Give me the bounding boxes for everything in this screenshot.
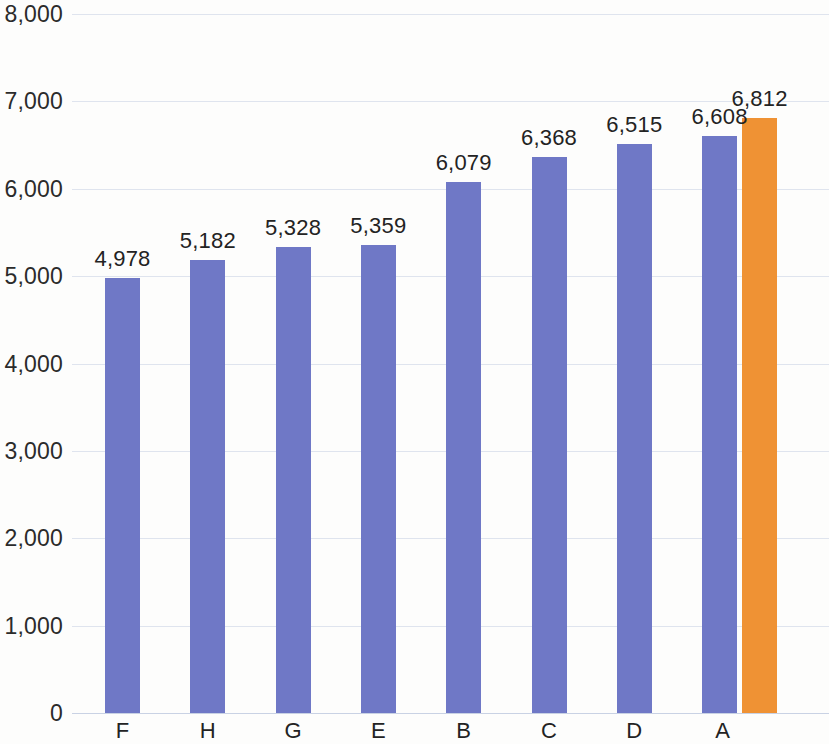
bar-value-label-d: 6,515 xyxy=(606,112,662,138)
x-axis-tick-label-b: B xyxy=(456,718,471,744)
bar-highlight-a xyxy=(742,118,777,713)
bar-value-label-c: 6,368 xyxy=(521,125,577,151)
gridline xyxy=(72,713,829,714)
x-axis-tick-label-c: C xyxy=(541,718,557,744)
gridline xyxy=(72,101,829,102)
y-axis-tick-label: 6,000 xyxy=(0,175,63,202)
y-axis-tick-label: 7,000 xyxy=(0,88,63,115)
bar-value-label-b: 6,079 xyxy=(436,150,492,176)
bar-h xyxy=(190,260,225,713)
x-axis-tick-label-a: A xyxy=(715,718,730,744)
y-axis-tick-label: 8,000 xyxy=(0,1,63,28)
bar-d xyxy=(617,144,652,713)
y-axis-tick-label: 2,000 xyxy=(0,525,63,552)
y-axis-tick-label: 0 xyxy=(0,700,63,727)
bar-f xyxy=(105,278,140,713)
x-axis-tick-label-d: D xyxy=(626,718,642,744)
bar-g xyxy=(276,247,311,713)
x-axis-tick-label-f: F xyxy=(116,718,129,744)
bar-b xyxy=(446,182,481,713)
y-axis-tick-label: 5,000 xyxy=(0,263,63,290)
gridline xyxy=(72,14,829,15)
x-axis-tick-label-e: E xyxy=(371,718,386,744)
y-axis-tick-label: 1,000 xyxy=(0,612,63,639)
bar-value-label-f: 4,978 xyxy=(94,246,150,272)
x-axis-tick-label-h: H xyxy=(200,718,216,744)
x-axis-tick-label-g: G xyxy=(285,718,302,744)
bar-chart: 01,0002,0003,0004,0005,0006,0007,0008,00… xyxy=(0,0,829,744)
y-axis-tick-label: 3,000 xyxy=(0,437,63,464)
bar-value-label-highlight-a: 6,812 xyxy=(732,86,788,112)
bar-a xyxy=(702,136,737,713)
bar-value-label-g: 5,328 xyxy=(265,215,321,241)
y-axis-tick-label: 4,000 xyxy=(0,350,63,377)
bar-value-label-e: 5,359 xyxy=(350,213,406,239)
bar-c xyxy=(532,157,567,713)
bar-value-label-h: 5,182 xyxy=(180,228,236,254)
bar-e xyxy=(361,245,396,713)
